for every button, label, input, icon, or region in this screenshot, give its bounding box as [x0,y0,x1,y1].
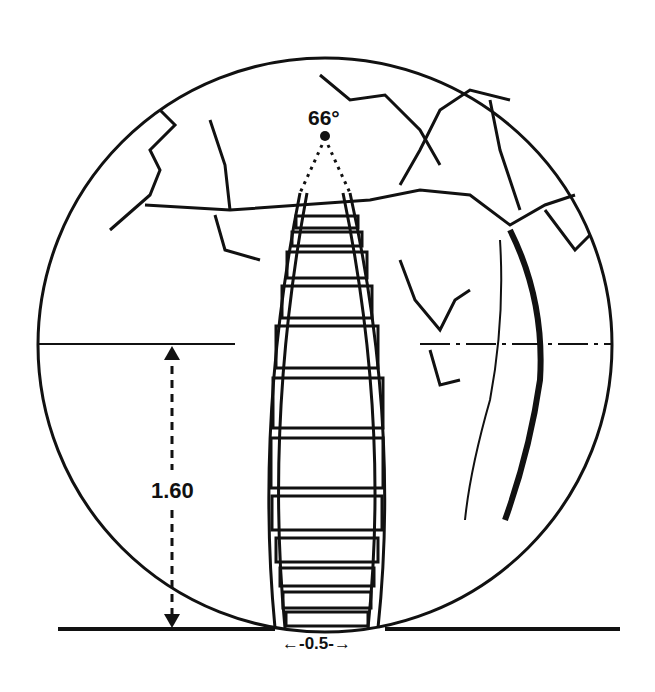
height-label: 1.60 [151,478,194,504]
tree-illustration [110,75,590,520]
diagram-canvas [0,0,655,692]
ladder-rungs [271,216,383,626]
angle-label: 66° [308,106,340,130]
apex-dotted-right [328,145,350,193]
apex-dotted-left [300,145,322,193]
width-label: ←-0.5-→ [282,634,351,654]
apex-point [320,131,330,141]
